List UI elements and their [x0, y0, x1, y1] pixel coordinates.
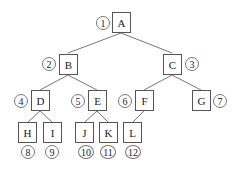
- tree-node-f: F: [135, 90, 154, 111]
- edge-e-j: [85, 111, 97, 122]
- tree-node-d: D: [31, 90, 50, 111]
- order-badge-k: 11: [100, 145, 116, 159]
- tree-node-g: G: [192, 90, 211, 111]
- edge-c-g: [172, 75, 201, 90]
- order-badge-a: 1: [96, 16, 110, 30]
- tree-node-j: J: [75, 122, 94, 143]
- order-badge-l: 12: [125, 145, 141, 159]
- order-badge-b: 2: [42, 57, 56, 71]
- order-badge-c: 3: [185, 57, 199, 71]
- order-badge-d: 4: [14, 94, 28, 108]
- edge-f-l: [133, 111, 144, 122]
- tree-node-a: A: [112, 12, 131, 33]
- edge-a-c: [121, 33, 172, 53]
- edge-d-h: [28, 111, 40, 122]
- edge-d-i: [40, 111, 52, 122]
- tree-node-e: E: [88, 90, 107, 111]
- order-badge-e: 5: [71, 94, 85, 108]
- tree-node-i: I: [43, 122, 62, 143]
- order-badge-h: 8: [21, 145, 35, 159]
- order-badge-i: 9: [45, 145, 59, 159]
- tree-node-c: C: [163, 54, 182, 75]
- tree-node-h: H: [18, 122, 37, 143]
- edge-b-e: [68, 75, 97, 90]
- order-badge-g: 7: [213, 94, 227, 108]
- tree-node-l: L: [123, 122, 142, 143]
- edge-a-b: [68, 33, 121, 53]
- order-badge-f: 6: [118, 94, 132, 108]
- tree-node-b: B: [59, 54, 78, 75]
- order-badge-j: 10: [78, 145, 94, 159]
- edge-c-f: [144, 75, 172, 90]
- edge-e-k: [97, 111, 108, 122]
- tree-node-k: K: [99, 122, 118, 143]
- edge-b-d: [40, 75, 68, 90]
